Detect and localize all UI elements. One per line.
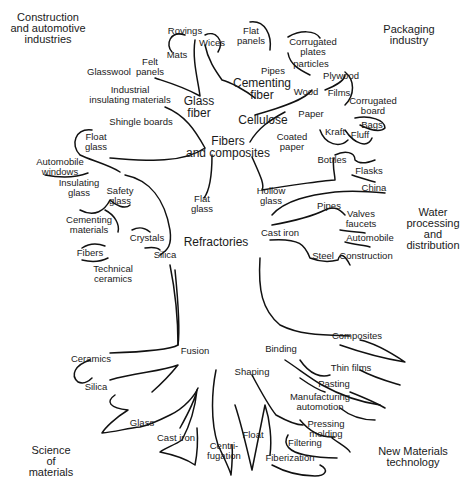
tree-node-label: Hollow glass [257,186,286,206]
tree-node-label: Valves faucets [346,209,377,229]
silica-down [170,265,178,345]
node-glass-fiber: Glass fiber [184,95,215,119]
tree-node-label: Glass [130,418,154,428]
tree-node-label: Felt panels [136,57,164,77]
node-fibers-composites: Fibers and composites [186,135,270,159]
tree-node-label: Glasswool [87,67,131,77]
tree-node-label: Corrugated plates [289,37,337,57]
tree-node-label: Flasks [355,166,382,176]
tree-node-label: Silica [85,382,108,392]
tree-node-label: Pasting [318,379,350,389]
node-refractories: Refractories [184,236,249,248]
composites-root [340,340,405,362]
tree-node-label: Insulating glass [59,178,100,198]
tree-node-label: Shingle boards [109,117,172,127]
tree-node-label: Silica [154,250,177,260]
tree-node-label: Centri- fugation [207,441,241,461]
domain-construction: Construction and automotive industries [10,12,85,45]
tree-node-label: Composites [332,331,382,341]
node-cementing-fiber: Cementing fiber [233,77,291,101]
tree-node-label: Float [242,430,263,440]
domain-new-materials: New Materials technology [378,446,448,468]
tree-node-label: Wood [294,87,319,97]
flasks-lines [352,175,375,182]
tree-node-label: Cementing materials [66,215,112,235]
tree-node-label: particles [293,59,328,69]
tree-node-label: Pipes [317,201,341,211]
steel-branch [270,240,350,265]
tree-node-label: Industrial insulating materials [89,85,170,105]
tree-node-label: Corrugated board [349,96,397,116]
silica-root [110,365,178,392]
tree-node-label: Cast iron [157,433,195,443]
tree-node-label: Shaping [235,367,270,377]
tree-node-label: Fusion [181,346,210,356]
tree-node-label: Plywood [323,71,359,81]
tree-node-label: Steel [312,251,334,261]
tree-node-label: Technical ceramics [93,264,133,284]
tree-node-label: Flat glass [191,194,213,214]
tree-node-label: Fibers [77,248,103,258]
tree-node-label: Paper [298,109,323,119]
tree-node-label: Flat panels [237,26,265,46]
tree-node-label: Fluff [351,130,369,140]
tree-node-label: Binding [265,344,297,354]
tree-node-label: Crystals [130,233,164,243]
trunk-right [260,258,350,336]
tree-node-label: Automobile windows [36,157,84,177]
tree-node-label: Filtering [288,438,322,448]
domain-water: Water processing and distribution [406,207,459,251]
tree-node-label: Pipes [261,66,285,76]
tree-node-label: Mats [167,50,188,60]
tree-node-label: Cast iron [261,228,299,238]
tree-node-label: Automobile [346,233,394,243]
tree-node-label: Construction [339,251,392,261]
node-cellulose: Cellulose [238,114,287,126]
fiberization-root [272,465,325,476]
fibers-to-flatglass [204,155,212,198]
tree-node-label: Ceramics [71,354,111,364]
tree-node-label: Kraft [325,127,345,137]
cast-iron-root [160,390,197,465]
tree-node-label: Bottles [317,155,346,165]
tree-node-label: China [362,183,387,193]
domain-packaging: Packaging industry [383,24,434,46]
tree-node-label: Pressing molding [308,419,345,439]
tree-node-label: Manufacturing automotion [290,392,350,412]
tree-node-label: Wices [199,38,225,48]
tree-node-label: Films [328,88,351,98]
tree-node-label: Thin films [331,363,372,373]
tree-node-label: Float glass [85,132,107,152]
tree-node-label: Coated paper [277,132,308,152]
domain-science: Science of materials [29,445,74,478]
tree-node-label: Safety glass [107,186,134,206]
tree-node-label: Rovings [168,26,202,36]
tree-node-label: Fiberization [265,453,314,463]
